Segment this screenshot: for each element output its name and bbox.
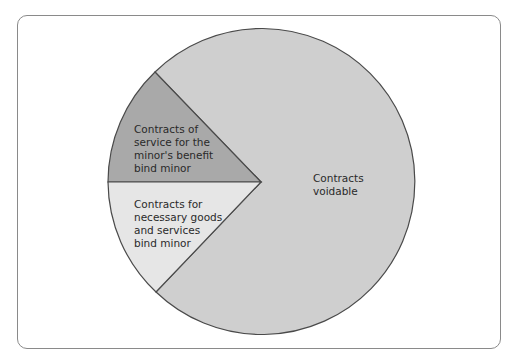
label-line: voidable [313, 185, 364, 198]
pie-chart [0, 0, 513, 364]
label-line: minor's benefit [134, 149, 213, 162]
label-line: bind minor [134, 237, 222, 250]
label-line: service for the [134, 136, 213, 149]
label-line: Contracts [313, 172, 364, 185]
label-line: Contracts of [134, 123, 213, 136]
label-line: Contracts for [134, 198, 222, 211]
label-service-benefit: Contracts of service for the minor's ben… [134, 123, 213, 175]
label-necessary-goods: Contracts for necessary goods and servic… [134, 198, 222, 250]
label-line: necessary goods [134, 211, 222, 224]
label-voidable: Contracts voidable [313, 172, 364, 198]
label-line: and services [134, 224, 222, 237]
label-line: bind minor [134, 162, 213, 175]
